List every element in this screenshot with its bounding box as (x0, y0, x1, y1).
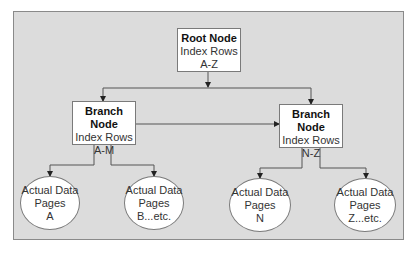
branch-node-title: Branch Node (280, 108, 342, 134)
leaf-line3: N (230, 212, 290, 225)
branch-node-line1: Index Rows (280, 134, 342, 147)
leaf-line3: A (21, 210, 79, 223)
leaf-line2: Pages (335, 199, 395, 212)
root-node-line2: A-Z (178, 58, 240, 71)
branch-node-a-m: Branch Node Index Rows A-M (72, 101, 136, 145)
leaf-line1: Actual Data (230, 186, 290, 199)
root-node-title: Root Node (178, 32, 240, 45)
leaf-node-n: Actual Data Pages N (229, 178, 291, 232)
root-node: Root Node Index Rows A-Z (177, 28, 241, 72)
leaf-line2: Pages (21, 197, 79, 210)
branch-node-title: Branch Node (73, 105, 135, 131)
leaf-line2: Pages (230, 199, 290, 212)
leaf-line3: B...etc. (125, 210, 183, 223)
branch-node-line1: Index Rows (73, 131, 135, 144)
leaf-node-a: Actual Data Pages A (20, 176, 80, 230)
leaf-line1: Actual Data (335, 186, 395, 199)
leaf-node-z: Actual Data Pages Z...etc. (334, 178, 396, 232)
leaf-line2: Pages (125, 197, 183, 210)
leaf-line1: Actual Data (125, 184, 183, 197)
leaf-node-b: Actual Data Pages B...etc. (124, 176, 184, 230)
branch-node-n-z: Branch Node Index Rows N-Z (279, 104, 343, 148)
branch-node-line2: N-Z (280, 147, 342, 160)
leaf-line1: Actual Data (21, 184, 79, 197)
leaf-line3: Z...etc. (335, 212, 395, 225)
root-node-line1: Index Rows (178, 45, 240, 58)
branch-node-line2: A-M (73, 144, 135, 157)
